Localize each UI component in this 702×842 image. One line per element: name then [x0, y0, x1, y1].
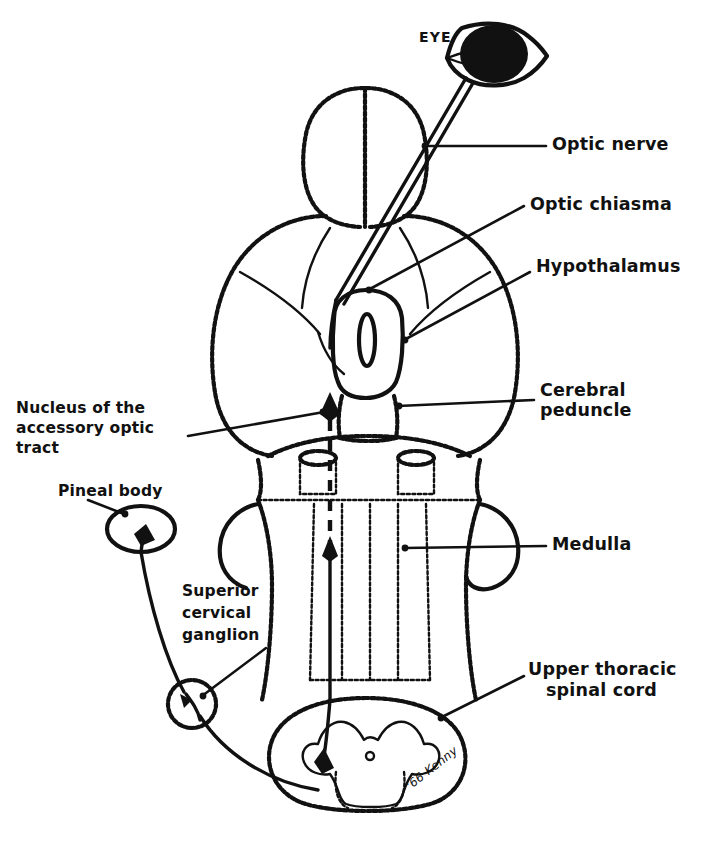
label-ganglion-line3: ganglion [182, 627, 260, 644]
label-eye: EYE [419, 30, 452, 46]
label-upper-thoracic-line1: Upper thoracic [528, 660, 677, 680]
label-nucleus-line1: Nucleus of the [16, 400, 145, 417]
label-optic-nerve: Optic nerve [552, 135, 669, 155]
label-cerebral-peduncle-line2: peduncle [540, 401, 632, 421]
label-hypothalamus: Hypothalamus [536, 257, 681, 277]
label-nucleus-line3: tract [16, 440, 59, 457]
leader-lines [88, 143, 546, 722]
pons-band [258, 436, 480, 500]
label-optic-chiasma: Optic chiasma [530, 195, 672, 215]
superior-cervical-ganglion [168, 680, 216, 728]
eye-structure [447, 24, 547, 86]
label-cerebral-peduncle-line1: Cerebral [540, 381, 626, 401]
label-medulla: Medulla [552, 535, 631, 555]
hypothalamus [333, 290, 403, 398]
optic-nerve-tract [330, 78, 473, 348]
medulla [220, 500, 519, 700]
pineal-body [107, 506, 175, 552]
figure-canvas: .out{fill:none;stroke:#111;stroke-width:… [0, 0, 702, 842]
label-pineal-body: Pineal body [58, 483, 163, 500]
label-upper-thoracic-line2: spinal cord [546, 681, 657, 701]
label-ganglion-line2: cervical [182, 605, 251, 622]
label-nucleus-line2: accessory optic [16, 420, 154, 437]
cerebral-hemispheres [303, 88, 427, 227]
label-ganglion-line1: Superior [182, 583, 259, 600]
